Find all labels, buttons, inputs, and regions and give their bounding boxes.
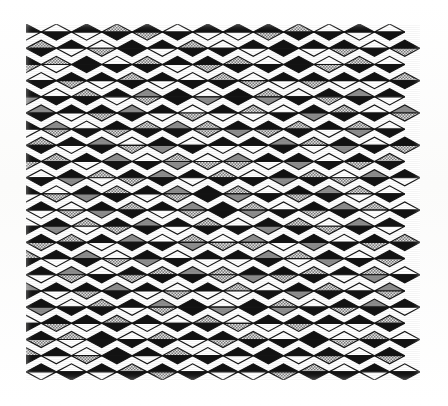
lattice-svg xyxy=(26,24,420,380)
page-canvas xyxy=(0,0,448,406)
diamond-lattice-artwork xyxy=(26,24,420,380)
